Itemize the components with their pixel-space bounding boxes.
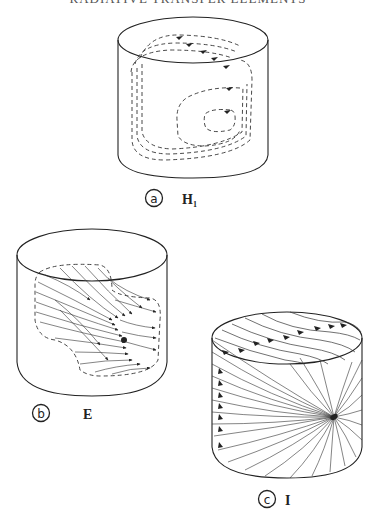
convergence-point-b xyxy=(121,337,127,343)
circulation-loops-a xyxy=(131,35,252,160)
figure-canvas: a H1 b E xyxy=(0,0,376,513)
marker-a: a xyxy=(150,192,157,206)
field-lines-b xyxy=(36,266,156,374)
label-H1: H1 xyxy=(182,192,197,209)
label-E: E xyxy=(83,407,92,422)
marker-c: c xyxy=(264,493,271,507)
cylinder-a xyxy=(118,17,268,178)
flow-arrows-c xyxy=(218,323,347,448)
radial-field-lines-c xyxy=(212,340,362,478)
label-I: I xyxy=(285,493,290,508)
cylinder-b xyxy=(17,229,167,396)
panel-b-caption: b E xyxy=(33,405,93,423)
marker-b: b xyxy=(37,407,45,421)
panel-c-caption: c I xyxy=(259,491,291,509)
panel-a-caption: a H1 xyxy=(146,190,197,210)
